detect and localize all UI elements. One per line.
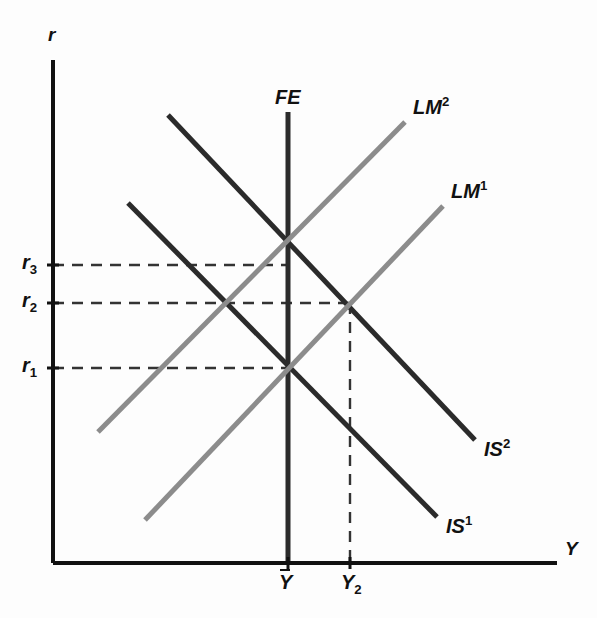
curve-lines-group bbox=[98, 112, 475, 563]
curve-label-LM1: LM1 bbox=[451, 178, 487, 203]
curve-LM2 bbox=[98, 122, 405, 432]
x-axis-label: Y bbox=[565, 538, 578, 560]
is-lm-fe-diagram: r Y FEIS2IS1LM2LM1 r3r2r1YY2 bbox=[0, 0, 597, 618]
curve-label-superscript: 1 bbox=[465, 513, 472, 528]
curve-label-IS2: IS2 bbox=[484, 436, 510, 461]
axes-group bbox=[53, 60, 557, 563]
overbar bbox=[280, 569, 290, 571]
curve-IS1 bbox=[128, 203, 437, 517]
y-tick-label-r1: r1 bbox=[22, 354, 37, 380]
tick-subscript: 3 bbox=[30, 262, 37, 277]
tick-subscript: 2 bbox=[354, 582, 361, 597]
x-tick-label-Ȳ: Y bbox=[279, 571, 292, 594]
y-tick-label-r3: r3 bbox=[22, 251, 37, 277]
curve-label-superscript: 1 bbox=[480, 178, 487, 193]
x-tick-label-Y2: Y2 bbox=[341, 571, 362, 597]
curve-LM1 bbox=[145, 206, 443, 520]
curve-label-FE: FE bbox=[275, 86, 301, 109]
guide-lines-group bbox=[53, 265, 350, 563]
tick-subscript: 1 bbox=[30, 365, 37, 380]
curve-label-LM2: LM2 bbox=[413, 94, 449, 119]
axis-ticks-group bbox=[47, 265, 350, 569]
curve-label-IS1: IS1 bbox=[446, 513, 472, 538]
y-bar-symbol: Y bbox=[279, 571, 292, 594]
curve-IS2 bbox=[168, 115, 475, 440]
y-tick-label-r2: r2 bbox=[22, 289, 37, 315]
curve-label-superscript: 2 bbox=[442, 94, 449, 109]
curve-label-superscript: 2 bbox=[503, 436, 510, 451]
tick-subscript: 2 bbox=[30, 300, 37, 315]
y-axis-label: r bbox=[48, 24, 55, 46]
